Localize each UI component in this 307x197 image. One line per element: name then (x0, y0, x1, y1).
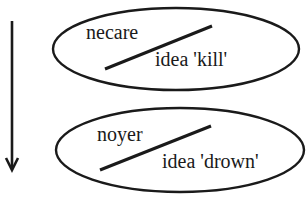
signifier-label: noyer (97, 123, 143, 146)
down-arrow-icon (6, 21, 18, 170)
signifier-label: necare (86, 21, 138, 43)
stage-necare: necare idea 'kill' (53, 8, 299, 90)
signified-label: idea 'kill' (155, 48, 227, 70)
stage-noyer: noyer idea 'drown' (56, 108, 304, 192)
signified-label: idea 'drown' (162, 150, 259, 172)
semantic-change-diagram: necare idea 'kill' noyer idea 'drown' (0, 0, 307, 197)
